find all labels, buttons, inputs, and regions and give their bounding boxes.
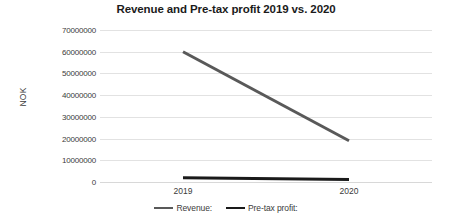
plot-area: [100, 30, 432, 182]
y-axis-tick-label: 70000000: [4, 26, 96, 35]
y-axis-tick-label: 40000000: [4, 91, 96, 100]
series-line: [183, 52, 349, 141]
chart-container: Revenue and Pre-tax profit 2019 vs. 2020…: [0, 0, 452, 219]
y-axis-tick-label: 60000000: [4, 47, 96, 56]
legend-line-swatch: [226, 207, 245, 210]
legend-label: Pre-tax profit:: [248, 203, 298, 213]
gridline: [100, 182, 432, 183]
legend-item[interactable]: Revenue:: [154, 203, 212, 213]
y-axis-tick-label: 10000000: [4, 156, 96, 165]
legend-item[interactable]: Pre-tax profit:: [226, 203, 298, 213]
series-line: [183, 178, 349, 180]
y-axis-tick-label: 30000000: [4, 112, 96, 121]
x-axis-tick-label: 2019: [153, 186, 213, 196]
y-axis-tick-label: 0: [4, 178, 96, 187]
chart-title: Revenue and Pre-tax profit 2019 vs. 2020: [0, 3, 452, 15]
chart-legend: Revenue:Pre-tax profit:: [0, 203, 452, 213]
x-axis-tick-label: 2020: [319, 186, 379, 196]
y-axis-tick-label: 20000000: [4, 134, 96, 143]
series-lines: [100, 30, 432, 182]
legend-line-swatch: [154, 207, 173, 210]
legend-label: Revenue:: [176, 203, 212, 213]
y-axis-tick-label: 50000000: [4, 69, 96, 78]
